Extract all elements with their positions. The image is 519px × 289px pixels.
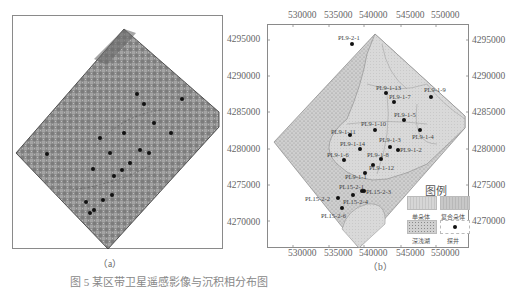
y-tick: 4290000 xyxy=(472,71,505,81)
x-tick: 545000 xyxy=(396,248,425,258)
figure-caption: 图 5 某区带卫星遥感影像与沉积相分布图 xyxy=(70,273,268,289)
well-marker xyxy=(373,128,377,132)
well-label: PL9-1-4 xyxy=(412,133,434,140)
well-label: PL9-1-8 xyxy=(367,151,389,158)
well-label: PL15-2-6 xyxy=(321,212,346,219)
well-label: PL9-2-1 xyxy=(338,34,360,41)
y-tick: 4285000 xyxy=(227,107,260,117)
well-marker xyxy=(402,118,406,122)
x-tick: 550000 xyxy=(431,248,460,258)
well-marker xyxy=(350,42,354,46)
y-tick: 4285000 xyxy=(472,107,505,117)
legend-swatch-deep-shallow-lake xyxy=(407,220,437,234)
x-tick: 540000 xyxy=(359,10,388,20)
well-marker xyxy=(351,193,355,197)
well-label: PL9-1-11 xyxy=(331,128,356,135)
well-label: PL9-1-6 xyxy=(327,151,349,158)
well-label: PL15-2-4 xyxy=(343,198,368,205)
x-tick: 550000 xyxy=(431,10,460,20)
well-label: PL9-1-10 xyxy=(361,120,386,127)
well-marker xyxy=(340,206,344,210)
well-marker xyxy=(384,91,388,95)
well-label: PL9-1-13 xyxy=(376,84,401,91)
x-tick: 545000 xyxy=(396,10,425,20)
well-label: PL15-2-2 xyxy=(305,195,330,202)
well-marker xyxy=(358,147,362,151)
panel-b-caption: （b） xyxy=(368,259,393,273)
well-marker xyxy=(418,128,422,132)
panel-a-caption: （a） xyxy=(98,256,122,270)
legend-swatch-single-lobe xyxy=(407,196,437,210)
legend-swatch-exploration-well xyxy=(440,220,470,234)
well-label: PL9-1-2 xyxy=(400,146,422,153)
legend-swatch-composite-lobe xyxy=(440,196,470,210)
x-tick: 540000 xyxy=(359,248,388,258)
x-tick: 535000 xyxy=(324,10,353,20)
well-label: PL9-1-12 xyxy=(369,164,394,171)
y-tick: 4275000 xyxy=(227,180,260,190)
x-tick: 535000 xyxy=(324,248,353,258)
well-marker xyxy=(392,100,396,104)
y-tick: 4280000 xyxy=(472,144,505,154)
well-label: PL15-2-3 xyxy=(366,188,391,195)
well-label: PL9-1-1 xyxy=(345,173,367,180)
well-marker xyxy=(429,95,433,99)
legend-label: 深浅湖 xyxy=(412,236,430,245)
x-tick: 530000 xyxy=(288,10,317,20)
well-marker xyxy=(453,225,457,229)
well-label: PL9-1-14 xyxy=(340,140,365,147)
y-tick: 4270000 xyxy=(227,217,260,227)
x-tick: 530000 xyxy=(288,248,317,258)
y-tick: 4275000 xyxy=(472,180,505,190)
well-marker xyxy=(342,158,346,162)
legend-label: 探井 xyxy=(447,236,459,245)
well-marker xyxy=(388,145,392,149)
facies-map xyxy=(267,24,469,248)
y-tick: 4295000 xyxy=(472,35,505,45)
y-tick: 4290000 xyxy=(227,71,260,81)
satellite-image xyxy=(12,15,223,249)
y-tick: 4270000 xyxy=(472,216,505,226)
well-label: PL9-1-5 xyxy=(394,111,416,118)
y-tick: 4280000 xyxy=(227,144,260,154)
well-label: PL15-2-1 xyxy=(339,183,364,190)
well-label: PL9-1-9 xyxy=(424,86,446,93)
y-tick: 4295000 xyxy=(227,34,260,44)
well-marker xyxy=(336,196,340,200)
well-label: PL9-1-7 xyxy=(389,93,411,100)
well-label: PL9-1-3 xyxy=(379,136,401,143)
